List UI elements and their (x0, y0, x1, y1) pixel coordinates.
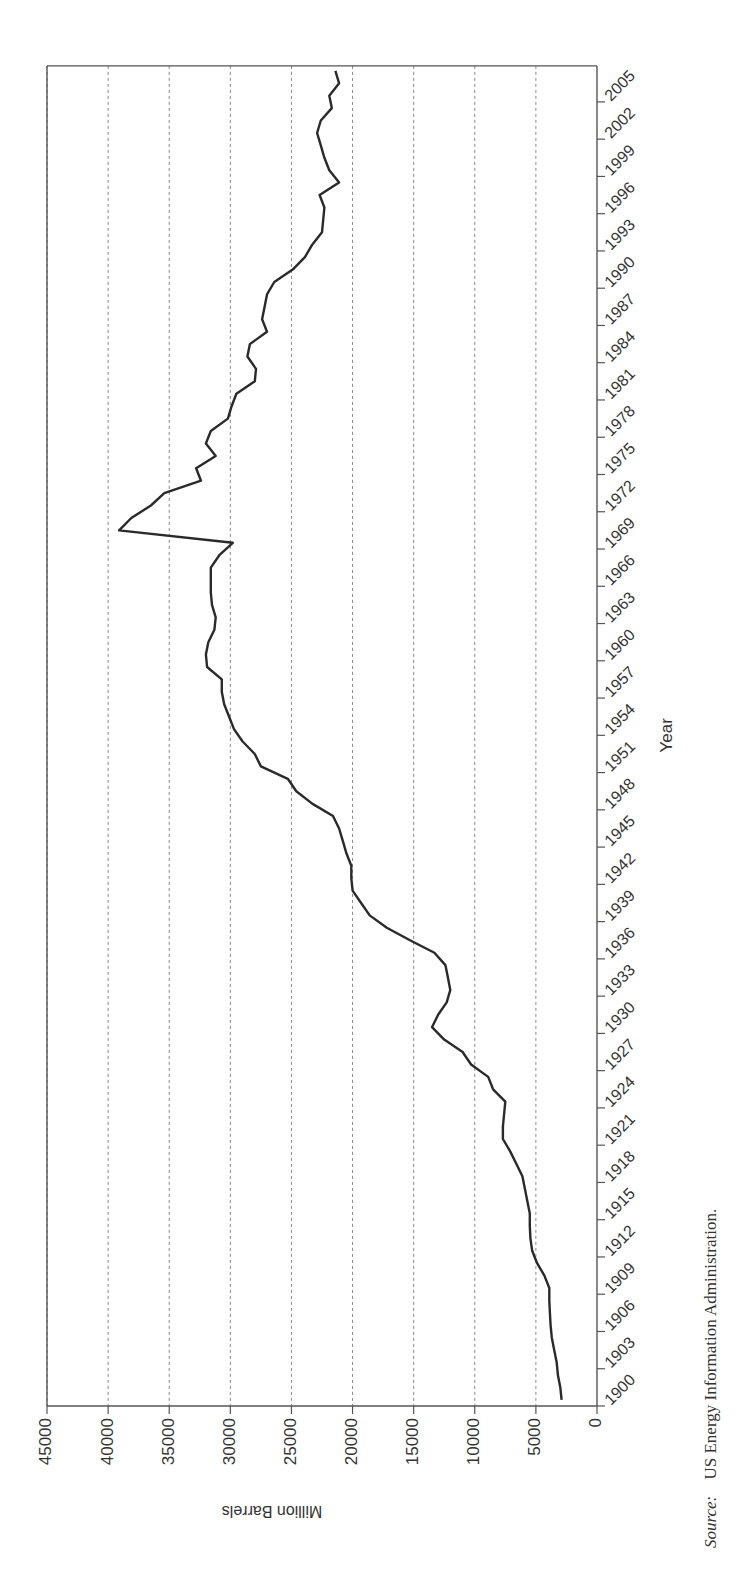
x-tick-label: 1906 (601, 1296, 638, 1333)
line-chart: 1900190319061909191219151918192119241927… (0, 0, 741, 1569)
x-tick-label: 1945 (601, 812, 638, 849)
y-tick-label: 35000 (159, 1418, 178, 1465)
x-tick-label: 1963 (601, 588, 638, 625)
y-tick-label: 30000 (220, 1418, 239, 1465)
x-tick-label: 1909 (601, 1259, 638, 1296)
x-tick-label: 1972 (601, 477, 638, 514)
y-tick-label: 5000 (525, 1418, 544, 1456)
x-tick-label: 1960 (601, 626, 638, 663)
x-tick-label: 1978 (601, 402, 638, 439)
x-tick-label: 1912 (601, 1222, 638, 1259)
gridlines (47, 66, 536, 1406)
x-tick-label: 1918 (601, 1147, 638, 1184)
x-tick-label: 1942 (601, 849, 638, 886)
source-text: US Energy Information Administration. (701, 1209, 720, 1480)
x-tick-label: 1948 (601, 775, 638, 812)
x-axis-label: Year (657, 718, 676, 753)
rotated-chart-page: 1900190319061909191219151918192119241927… (0, 0, 741, 1569)
x-tick-label: 1969 (601, 514, 638, 551)
x-tick-label: 1957 (601, 663, 638, 700)
x-tick-label: 1930 (601, 998, 638, 1035)
x-tick-label: 1951 (601, 737, 638, 774)
x-tick-label: 1993 (601, 216, 638, 253)
x-tick-label: 1900 (601, 1371, 638, 1408)
y-axis-label: Million Barrels (222, 1503, 322, 1520)
axes (47, 66, 597, 1406)
x-tick-label: 1933 (601, 961, 638, 998)
x-tick-label: 1981 (601, 365, 638, 402)
x-tick-label: 2002 (601, 104, 638, 141)
x-tick-label: 1987 (601, 290, 638, 327)
y-tick-label: 20000 (342, 1418, 361, 1465)
data-line (119, 71, 562, 1400)
x-tick-label: 1903 (601, 1334, 638, 1371)
x-tick-label: 1924 (601, 1073, 638, 1110)
x-tick-label: 1939 (601, 886, 638, 923)
x-tick-label: 1921 (601, 1110, 638, 1147)
x-tick-label: 1966 (601, 551, 638, 588)
y-tick-label: 15000 (403, 1418, 422, 1465)
x-tick-label: 1936 (601, 924, 638, 961)
x-tick-label: 2005 (601, 67, 638, 104)
x-tick-label: 1927 (601, 1036, 638, 1073)
y-tick-label: 10000 (464, 1418, 483, 1465)
x-tick-label: 1984 (601, 328, 638, 365)
source-note: Source: US Energy Information Administra… (701, 1209, 720, 1548)
x-tick-label: 1990 (601, 253, 638, 290)
x-axis-ticks: 1900190319061909191219151918192119241927… (597, 67, 638, 1408)
x-tick-label: 1954 (601, 700, 638, 737)
source-label: Source: (701, 1496, 720, 1548)
x-tick-label: 1915 (601, 1185, 638, 1222)
y-tick-label: 40000 (98, 1418, 117, 1465)
y-tick-label: 0 (586, 1418, 605, 1427)
y-axis-ticks: 0500010000150002000025000300003500040000… (36, 1406, 605, 1465)
x-tick-label: 1996 (601, 179, 638, 216)
x-tick-label: 1975 (601, 439, 638, 476)
y-tick-label: 45000 (36, 1418, 55, 1465)
x-tick-label: 1999 (601, 141, 638, 178)
y-tick-label: 25000 (281, 1418, 300, 1465)
